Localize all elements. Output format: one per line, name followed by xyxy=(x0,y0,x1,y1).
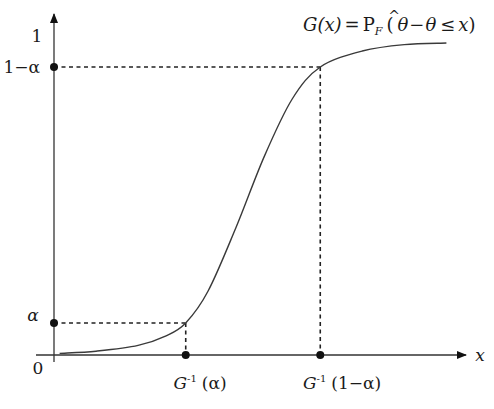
formula-theta: θ xyxy=(425,14,436,35)
x-axis-label: x xyxy=(475,345,485,365)
y-tick-label-one-minus-alpha: 1−α xyxy=(3,57,40,77)
formula-x: x xyxy=(458,14,468,35)
formula-eq: = xyxy=(345,14,360,35)
formula-sub: F xyxy=(374,25,383,38)
formula-close: ) xyxy=(469,14,476,35)
y-tick-label-alpha: α xyxy=(27,305,39,325)
x-tick-1-sup: -1 xyxy=(187,373,197,384)
x-tick-1-arg: (α) xyxy=(202,373,227,393)
x-tick-2-main: G xyxy=(303,373,317,393)
y-axis-one-minus-alpha-point xyxy=(50,63,58,71)
y-axis-alpha-point xyxy=(50,319,58,327)
x-tick-1-main: G xyxy=(173,373,187,393)
formula-minus: − xyxy=(409,14,424,35)
cdf-curve xyxy=(60,43,447,353)
x-tick-label-alpha-quantile: G-1(α) xyxy=(173,373,226,393)
x-tick-2-arg: (1−α) xyxy=(331,373,381,393)
origin-label: 0 xyxy=(33,358,44,378)
formula-hat-accent: ^ xyxy=(388,8,400,24)
cdf-diagram: 1 1−α α 0 x G-1(α) G-1(1−α) G(x)=PF(θ−θ≤… xyxy=(0,0,494,409)
formula-leq: ≤ xyxy=(440,14,455,35)
formula-p: P xyxy=(363,14,375,35)
y-tick-label-one: 1 xyxy=(32,26,43,46)
x-tick-label-one-minus-alpha-quantile: G-1(1−α) xyxy=(303,373,381,393)
x-tick-2-sup: -1 xyxy=(317,373,327,384)
formula-lhs: G(x) xyxy=(303,14,342,35)
x-axis-alpha-quantile-point xyxy=(182,351,190,359)
x-axis-one-minus-alpha-quantile-point xyxy=(316,351,324,359)
